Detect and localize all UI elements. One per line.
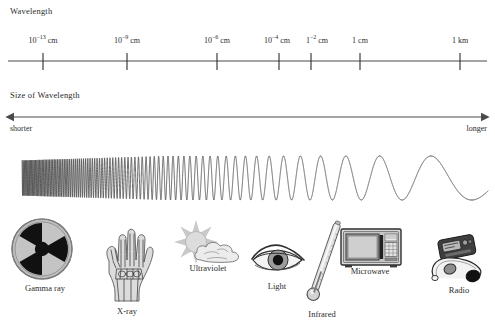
device-label-infrared: Infrared [308,309,335,319]
device-label-light: Light [268,281,286,291]
hand-xray-icon [97,221,159,305]
radiation-trefoil-icon [9,218,81,284]
device-label-radio: Radio [449,285,469,295]
x-ray-icon-group [97,221,159,305]
eye-icon [250,243,306,279]
light-icon-group [250,243,306,279]
portable-radio-headphones-icon [425,234,491,286]
radio-icon-group [425,234,491,286]
gamma-ray-icon-group [9,218,81,284]
device-label-gamma-ray: Gamma ray [25,283,65,293]
device-label-x-ray: X-ray [117,306,137,316]
spectrum-diagram: Wavelength 10−13 cm 10−9 cm 10−6 cm 10−4… [0,0,495,333]
microwave-oven-icon [340,228,402,268]
device-label-microwave: Microwave [351,266,390,276]
device-label-ultraviolet: Ultraviolet [190,263,227,273]
wave-path [22,156,488,200]
microwave-icon-group [340,228,402,268]
